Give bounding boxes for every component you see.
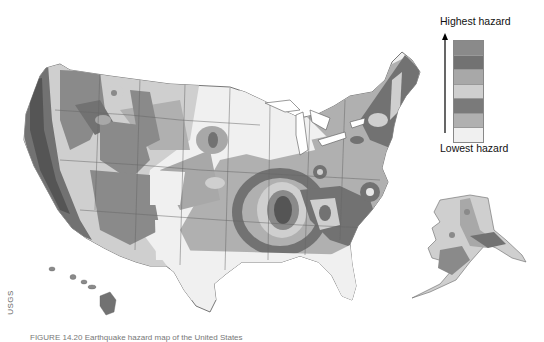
image-credit: USGS <box>2 290 16 318</box>
alaska <box>412 195 526 298</box>
conterminous-us <box>20 50 420 312</box>
legend-swatch <box>454 56 483 71</box>
arrow-up-icon <box>442 33 448 133</box>
legend-swatches <box>453 40 484 143</box>
credit-text: USGS <box>6 290 15 315</box>
hawaii <box>49 267 116 315</box>
legend-swatch <box>454 128 483 142</box>
legend-swatch <box>454 85 483 100</box>
legend-highest-label: Highest hazard <box>440 15 511 27</box>
legend-swatch <box>454 99 483 114</box>
legend-swatch <box>454 70 483 85</box>
figure-caption: FIGURE 14.20 Earthquake hazard map of th… <box>30 333 243 342</box>
legend-lowest-label: Lowest hazard <box>440 142 508 154</box>
legend-swatch <box>454 114 483 129</box>
legend-swatch <box>454 41 483 56</box>
